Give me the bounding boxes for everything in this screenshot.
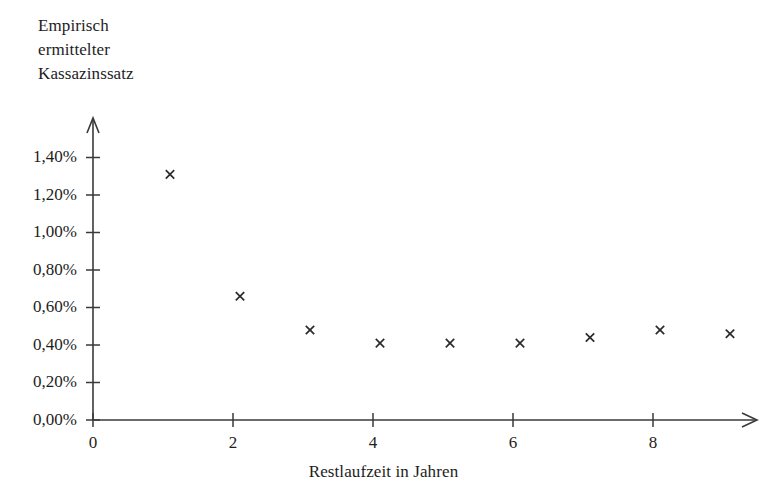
y-axis-tick-label: 1,40% [33, 147, 77, 166]
y-axis-tick-label: 0,20% [33, 372, 77, 391]
data-point-marker [726, 330, 734, 338]
data-point-marker [306, 326, 314, 334]
y-axis-tick-label: 0,80% [33, 260, 77, 279]
y-axis-tick-label: 0,00% [33, 410, 77, 429]
x-axis-title: Restlaufzeit in Jahren [0, 462, 767, 482]
x-axis-tick-label: 0 [89, 433, 98, 452]
data-point-marker [236, 292, 244, 300]
data-point-marker [446, 339, 454, 347]
data-point-marker [376, 339, 384, 347]
chart-container: Empirisch ermittelter Kassazinssatz 0,00… [0, 0, 767, 500]
y-axis-tick-label: 1,00% [33, 222, 77, 241]
y-axis-tick-label: 1,20% [33, 185, 77, 204]
data-point-marker [656, 326, 664, 334]
x-ticks-group: 02468 [89, 413, 658, 452]
x-axis-tick-label: 8 [649, 433, 658, 452]
y-ticks-group: 0,00%0,20%0,40%0,60%0,80%1,00%1,20%1,40% [33, 147, 100, 429]
x-axis-tick-label: 4 [369, 433, 378, 452]
data-point-marker [166, 170, 174, 178]
data-point-marker [516, 339, 524, 347]
scatter-plot-svg: 0,00%0,20%0,40%0,60%0,80%1,00%1,20%1,40%… [0, 0, 767, 500]
y-axis-tick-label: 0,60% [33, 297, 77, 316]
data-markers-group [166, 170, 734, 347]
data-point-marker [586, 333, 594, 341]
x-axis-tick-label: 6 [509, 433, 518, 452]
y-axis-tick-label: 0,40% [33, 335, 77, 354]
axes-group [87, 118, 757, 427]
x-axis-tick-label: 2 [229, 433, 238, 452]
